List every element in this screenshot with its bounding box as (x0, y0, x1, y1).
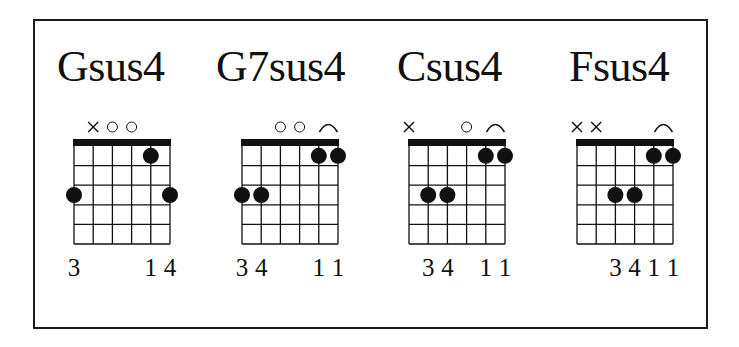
finger-number: 1 (667, 254, 680, 281)
finger-dot (665, 148, 681, 164)
finger-number: 4 (628, 254, 641, 281)
finger-dot (607, 187, 623, 203)
finger-dot (627, 187, 643, 203)
muted-string-icon (591, 122, 601, 132)
muted-string-icon (572, 122, 582, 132)
nut (576, 139, 674, 146)
finger-dot (646, 148, 662, 164)
finger-number: 3 (609, 254, 622, 281)
fretboard-grid: 3411 (0, 0, 739, 347)
barre-arc-icon (654, 125, 672, 133)
finger-number: 1 (648, 254, 661, 281)
